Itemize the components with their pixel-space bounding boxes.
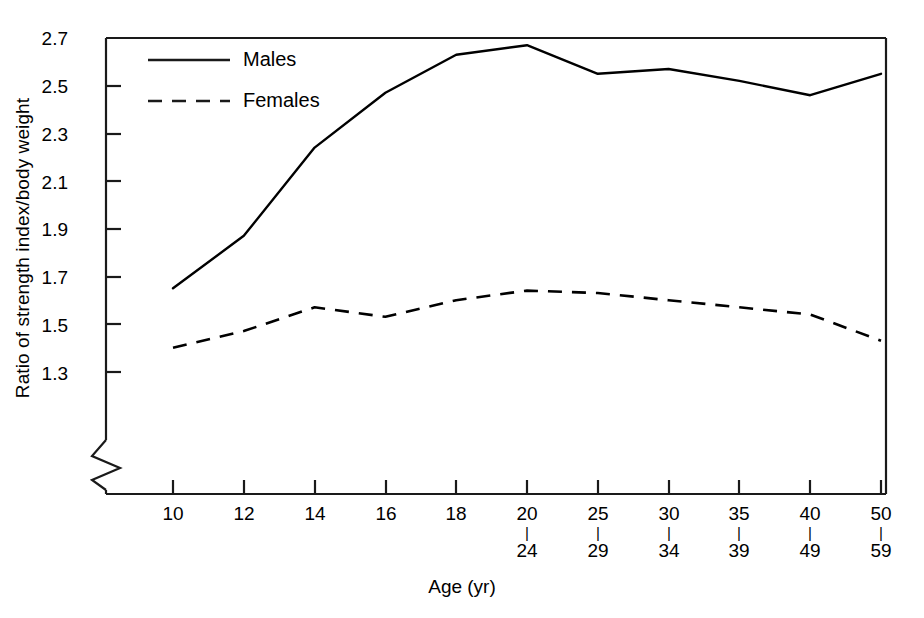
x-tick-label-35: 35 xyxy=(728,503,749,524)
x-tick-range-separator: | xyxy=(783,525,837,540)
x-tick-label-59: 59 xyxy=(870,540,891,561)
chart-figure: Ratio of strength index/body weight 2.7 … xyxy=(0,0,924,618)
legend-label-females: Females xyxy=(243,89,320,112)
x-tick-label-40-49: 40 | 49 xyxy=(783,503,837,561)
x-tick-label-25-29: 25 | 29 xyxy=(571,503,625,561)
x-tick-label-16: 16 xyxy=(359,503,413,524)
series-line-males xyxy=(173,45,881,288)
x-tick-range-separator: | xyxy=(712,525,766,540)
x-tick-label-29: 29 xyxy=(587,540,608,561)
plot-axes xyxy=(92,38,886,494)
x-tick-range-separator: | xyxy=(642,525,696,540)
legend-label-males: Males xyxy=(243,48,296,71)
series-line-females xyxy=(173,291,881,348)
x-tick-label-14: 14 xyxy=(288,503,342,524)
x-tick-range-separator: | xyxy=(854,525,908,540)
x-tick-marks xyxy=(173,480,881,494)
x-axis-title: Age (yr) xyxy=(0,576,924,598)
x-tick-label-49: 49 xyxy=(799,540,820,561)
x-tick-label-30: 30 xyxy=(658,503,679,524)
x-tick-label-20-24: 20 | 24 xyxy=(500,503,554,561)
x-tick-label-18: 18 xyxy=(429,503,483,524)
y-tick-marks xyxy=(106,86,121,372)
x-tick-label-20: 20 xyxy=(516,503,537,524)
x-tick-label-34: 34 xyxy=(658,540,679,561)
x-tick-label-50: 50 xyxy=(870,503,891,524)
x-tick-label-30-34: 30 | 34 xyxy=(642,503,696,561)
x-tick-label-35-39: 35 | 39 xyxy=(712,503,766,561)
x-tick-label-39: 39 xyxy=(728,540,749,561)
x-tick-label-50-59: 50 | 59 xyxy=(854,503,908,561)
x-tick-label-40: 40 xyxy=(799,503,820,524)
x-tick-label-25: 25 xyxy=(587,503,608,524)
x-tick-label-10: 10 xyxy=(146,503,200,524)
x-tick-range-separator: | xyxy=(571,525,625,540)
y-axis-break-icon xyxy=(92,440,120,490)
x-tick-label-24: 24 xyxy=(516,540,537,561)
x-tick-range-separator: | xyxy=(500,525,554,540)
x-tick-label-12: 12 xyxy=(217,503,271,524)
